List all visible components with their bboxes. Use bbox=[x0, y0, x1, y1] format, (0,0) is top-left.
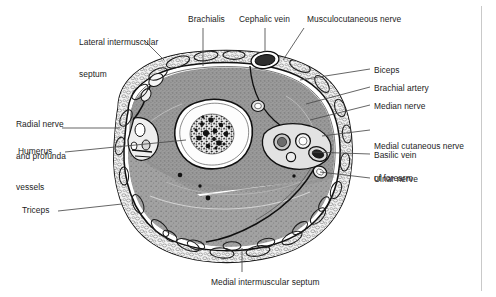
label-line: vessels bbox=[16, 182, 66, 193]
label-brachialis: Brachialis bbox=[188, 14, 225, 25]
leader-triceps bbox=[58, 204, 122, 211]
label-triceps: Triceps bbox=[22, 205, 50, 216]
medullary-cavity bbox=[190, 114, 234, 154]
label-line: septum bbox=[79, 69, 158, 80]
label-line: Lateral intermuscular bbox=[79, 37, 158, 48]
label-medial-cutaneous-nerve-of-forearm: Medial cutaneous nerve of forearm bbox=[374, 120, 464, 204]
leader-musculocutaneous-nerve bbox=[283, 28, 304, 60]
label-line: Radial nerve bbox=[16, 119, 66, 130]
label-basilic-vein: Basilic vein bbox=[374, 150, 417, 161]
label-brachial-artery: Brachial artery bbox=[374, 83, 429, 94]
label-musculocutaneous-nerve: Musculocutaneous nerve bbox=[307, 14, 401, 25]
humerus-shaft bbox=[175, 99, 253, 169]
label-ulnar-nerve: Ulnar nerve bbox=[374, 174, 418, 185]
anatomy-figure-page: Lateral intermuscular septum Brachialis … bbox=[0, 0, 496, 297]
label-biceps: Biceps bbox=[374, 65, 399, 76]
label-humerus: Humerus bbox=[18, 146, 52, 157]
label-lateral-intermuscular-septum: Lateral intermuscular septum bbox=[79, 16, 158, 100]
label-median-nerve: Median nerve bbox=[374, 101, 425, 112]
musculocutaneous-nerve-body bbox=[252, 101, 265, 112]
median-nerve-body bbox=[296, 134, 311, 149]
medial-cutaneous-nerve-body bbox=[286, 152, 295, 161]
label-cephalic-vein: Cephalic vein bbox=[239, 14, 290, 25]
label-medial-intermuscular-septum: Medial intermuscular septum bbox=[211, 277, 319, 288]
brachial-artery-lumen bbox=[274, 134, 290, 150]
